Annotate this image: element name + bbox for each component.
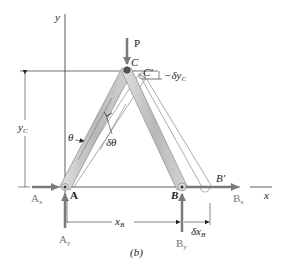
point-c-label: C	[131, 56, 139, 68]
member-ac-stripe	[78, 98, 112, 160]
point-b-prime-label: B'	[216, 172, 226, 184]
theta-label: θ	[68, 131, 74, 143]
pin-c	[124, 67, 130, 73]
point-b-label: B	[170, 189, 178, 201]
dxb-label: δxB	[191, 225, 206, 239]
dtheta-pointer	[106, 115, 112, 134]
force-by-label: By	[176, 237, 187, 251]
point-c-prime-label: C'	[143, 66, 153, 78]
x-axis-label: x	[263, 189, 269, 201]
dtheta-label: δθ	[106, 136, 117, 148]
xb-label: xB	[114, 215, 125, 229]
y-axis-label: y	[54, 11, 60, 23]
theta-arrow	[75, 140, 84, 141]
pin-a-center	[64, 186, 67, 189]
force-p-label: P	[134, 37, 140, 49]
member-ac	[60, 68, 132, 190]
figure-caption: (b)	[130, 246, 143, 259]
pin-b-center	[181, 186, 184, 189]
force-ax-label: Ax	[31, 192, 43, 206]
force-ay-label: Ay	[59, 233, 71, 247]
force-bx-label: Bx	[233, 192, 244, 206]
virtual-work-diagram: P Ax Ay Bx By C C' A B B' y x yC −δyC xB…	[0, 0, 282, 266]
point-a-label: A	[70, 189, 78, 201]
dyc-label: −δyC	[164, 69, 186, 83]
